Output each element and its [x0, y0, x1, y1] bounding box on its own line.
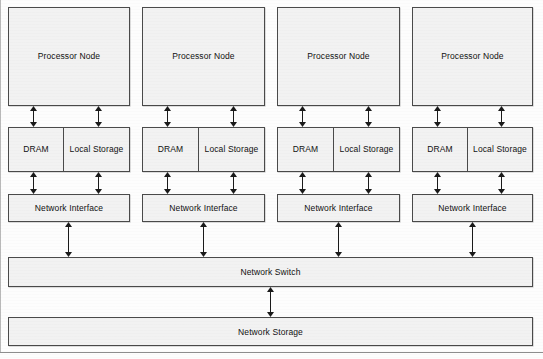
arrow-processor-localstorage-1 [94, 106, 103, 127]
arrow-dram-interface-3 [298, 172, 307, 194]
page-frame-bottom-rule [0, 352, 543, 353]
network-switch-label: Network Switch [241, 267, 301, 277]
dram-label-2: DRAM [158, 144, 183, 155]
processor-node-box-2: Processor Node [142, 7, 265, 106]
memory-row-4: DRAM Local Storage [412, 127, 533, 172]
arrow-localstorage-interface-3 [364, 172, 373, 194]
arrow-interface-switch-3 [334, 222, 343, 257]
local-storage-label-1: Local Storage [70, 144, 124, 155]
network-interface-label-4: Network Interface [438, 203, 506, 214]
processor-node-label-1: Processor Node [38, 51, 100, 62]
arrow-interface-switch-2 [199, 222, 208, 257]
network-switch-bar: Network Switch [8, 257, 533, 287]
arrow-processor-localstorage-2 [229, 106, 238, 127]
processor-node-label-3: Processor Node [307, 51, 369, 62]
network-interface-box-2: Network Interface [142, 194, 265, 222]
network-interface-box-3: Network Interface [277, 194, 400, 222]
arrow-dram-interface-4 [433, 172, 442, 194]
arrow-processor-localstorage-3 [364, 106, 373, 127]
memory-row-2: DRAM Local Storage [142, 127, 265, 172]
network-storage-bar: Network Storage [8, 317, 533, 346]
dram-cell-4: DRAM [413, 128, 468, 171]
memory-row-1: DRAM Local Storage [8, 127, 130, 172]
dram-cell-3: DRAM [278, 128, 334, 171]
arrow-localstorage-interface-4 [497, 172, 506, 194]
arrow-switch-storage [266, 287, 275, 317]
arrow-interface-switch-1 [64, 222, 73, 257]
dram-cell-1: DRAM [9, 128, 64, 171]
local-storage-cell-1: Local Storage [64, 128, 129, 171]
local-storage-cell-3: Local Storage [334, 128, 399, 171]
network-interface-label-3: Network Interface [304, 203, 372, 214]
arrow-processor-dram-4 [433, 106, 442, 127]
arrow-processor-localstorage-4 [497, 106, 506, 127]
local-storage-label-4: Local Storage [473, 144, 527, 155]
memory-row-3: DRAM Local Storage [277, 127, 400, 172]
local-storage-cell-4: Local Storage [468, 128, 532, 171]
local-storage-cell-2: Local Storage [199, 128, 264, 171]
arrow-localstorage-interface-2 [229, 172, 238, 194]
processor-node-label-4: Processor Node [441, 51, 503, 62]
local-storage-label-3: Local Storage [340, 144, 394, 155]
page-frame-left-rule [0, 0, 1, 352]
arrow-interface-switch-4 [468, 222, 477, 257]
processor-node-box-1: Processor Node [8, 7, 130, 106]
arrow-processor-dram-3 [298, 106, 307, 127]
local-storage-label-2: Local Storage [205, 144, 259, 155]
dram-label-3: DRAM [293, 144, 318, 155]
network-interface-box-4: Network Interface [412, 194, 533, 222]
network-interface-label-2: Network Interface [169, 203, 237, 214]
dram-label-4: DRAM [427, 144, 452, 155]
arrow-processor-dram-1 [29, 106, 38, 127]
network-storage-label: Network Storage [238, 327, 303, 337]
diagram-canvas: Processor Node DRAM Local Storage Networ… [0, 0, 543, 359]
network-interface-label-1: Network Interface [35, 203, 103, 214]
dram-label-1: DRAM [23, 144, 48, 155]
network-interface-box-1: Network Interface [8, 194, 130, 222]
processor-node-label-2: Processor Node [172, 51, 234, 62]
processor-node-box-4: Processor Node [412, 7, 533, 106]
arrow-dram-interface-2 [163, 172, 172, 194]
dram-cell-2: DRAM [143, 128, 199, 171]
arrow-localstorage-interface-1 [94, 172, 103, 194]
arrow-processor-dram-2 [163, 106, 172, 127]
processor-node-box-3: Processor Node [277, 7, 400, 106]
arrow-dram-interface-1 [29, 172, 38, 194]
